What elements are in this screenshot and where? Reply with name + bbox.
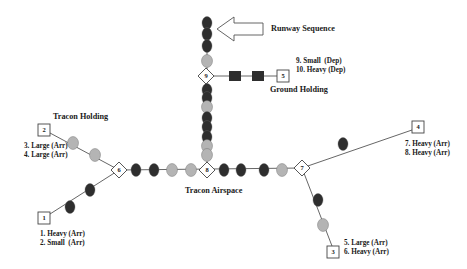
aircraft-list-label: 4. Large (Arr)	[24, 151, 68, 159]
edges	[50, 18, 412, 246]
aircraft-gray-icon	[202, 149, 213, 162]
aircraft-dark-icon	[236, 164, 246, 177]
aircraft-list-label: 3. Large (Arr)	[24, 142, 68, 150]
aircraft-dark-icon	[202, 28, 212, 41]
aircraft-dark-icon	[259, 164, 269, 177]
aircraft-dark-icon	[338, 138, 348, 151]
edge-7-3	[302, 168, 332, 246]
edge-1-6	[50, 170, 119, 214]
aircraft-dark-icon	[131, 164, 141, 177]
aircraft-gray-icon	[318, 219, 329, 232]
source-number: 1	[42, 214, 45, 221]
aircraft-dark-icon	[202, 40, 212, 53]
aircraft-list-label: 8. Heavy (Arr)	[405, 149, 451, 157]
aircraft-layer	[65, 17, 348, 232]
ground-holding-label: Ground Holding	[270, 85, 329, 94]
air-traffic-network-diagram: Runway Sequence 6789 11. Heavy (Arr)2. S…	[0, 0, 467, 269]
aircraft-list-label: 2. Small (Arr)	[40, 239, 85, 247]
aircraft-gray-icon	[202, 55, 213, 68]
aircraft-dark-icon	[65, 201, 75, 214]
aircraft-gray-icon	[186, 164, 197, 177]
aircraft-list-label: 5. Large (Arr)	[344, 239, 388, 247]
edge-7-4	[302, 130, 412, 168]
aircraft-list-label: 9. Small (Dep)	[296, 57, 342, 65]
aircraft-list-label: 10. Heavy (Dep)	[296, 66, 346, 74]
ground-aircraft-icon	[252, 71, 264, 81]
aircraft-list-label: 6. Heavy (Arr)	[344, 248, 390, 256]
runway-arrow-icon	[217, 17, 263, 41]
aircraft-gray-icon	[277, 164, 288, 177]
aircraft-list-label: 7. Heavy (Arr)	[405, 140, 451, 148]
ground-aircraft-icon	[229, 71, 241, 81]
tracon-holding-label: Tracon Holding	[53, 112, 109, 121]
runway-sequence-label: Runway Sequence	[271, 24, 335, 33]
aircraft-dark-icon	[219, 164, 229, 177]
aircraft-list-label: 1. Heavy (Arr)	[40, 230, 86, 238]
source-number: 2	[42, 126, 45, 133]
aircraft-dark-icon	[85, 184, 95, 197]
tracon-airspace-label: Tracon Airspace	[185, 186, 243, 195]
aircraft-gray-icon	[68, 137, 79, 150]
aircraft-dark-icon	[313, 194, 323, 207]
aircraft-gray-icon	[90, 149, 101, 162]
aircraft-dark-icon	[149, 164, 159, 177]
source-layer: 11. Heavy (Arr)2. Small (Arr)23. Large (…	[24, 57, 451, 258]
aircraft-gray-icon	[167, 164, 178, 177]
